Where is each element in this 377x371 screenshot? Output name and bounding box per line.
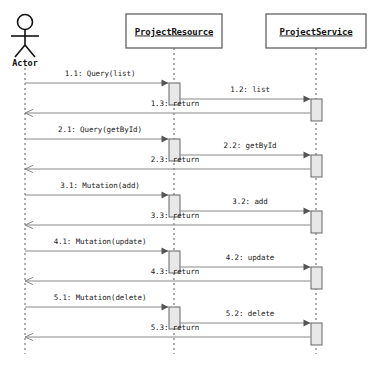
message-1-1[interactable]: 1.1: Query(list) [25,69,169,86]
actor-leg-left-icon [15,45,25,57]
message-arrowhead-1-1 [162,80,169,87]
activation-bar-service[interactable] [311,323,322,345]
message-label-2-3: 2.3: return [151,155,200,164]
message-4-1[interactable]: 4.1: Mutation(update) [25,237,169,254]
message-label-2-2: 2.2: getById [224,141,277,150]
lifeline-resource[interactable]: ProjectResource [126,14,222,354]
sequence-diagram-canvas: ProjectResourceProjectService 1.1: Query… [0,0,377,371]
activation-bar-service[interactable] [311,155,322,177]
activation-bar-service[interactable] [311,267,322,289]
sequence-diagram-svg: ProjectResourceProjectService 1.1: Query… [0,0,377,371]
message-arrowhead-1-2 [304,96,311,103]
message-arrowhead-5-1 [162,304,169,311]
lifeline-service[interactable]: ProjectService [266,14,366,354]
message-4-3[interactable]: 4.3: return [25,267,311,285]
message-5-1[interactable]: 5.1: Mutation(delete) [25,293,169,310]
message-label-4-1: 4.1: Mutation(update) [54,237,147,246]
message-2-1[interactable]: 2.1: Query(getById) [25,125,169,142]
actor-head-icon [18,15,33,30]
actor-figure-group: Actor [11,15,39,69]
message-label-3-2: 3.2: add [232,197,267,206]
activation-bar-service[interactable] [311,99,322,121]
message-label-5-1: 5.1: Mutation(delete) [54,293,147,302]
message-label-4-2: 4.2: update [226,253,275,262]
message-3-3[interactable]: 3.3: return [25,211,311,229]
message-arrowhead-3-1 [162,192,169,199]
activation-bar-service[interactable] [311,211,322,233]
message-label-4-3: 4.3: return [151,267,200,276]
message-label-5-2: 5.2: delete [226,309,275,318]
message-label-1-2: 1.2: list [230,85,270,94]
message-1-3[interactable]: 1.3: return [25,99,311,117]
message-arrowhead-4-1 [162,248,169,255]
actor-leg-right-icon [25,45,35,57]
message-2-3[interactable]: 2.3: return [25,155,311,173]
message-label-3-3: 3.3: return [151,211,200,220]
message-arrowhead-2-1 [162,136,169,143]
message-label-2-1: 2.1: Query(getById) [58,125,142,134]
message-arrowhead-5-2 [304,320,311,327]
actor-label: Actor [12,58,38,68]
message-label-5-3: 5.3: return [151,323,200,332]
messages-group: 1.1: Query(list)1.2: list1.3: return2.1:… [25,69,311,341]
message-label-1-3: 1.3: return [151,99,200,108]
message-arrowhead-3-2 [304,208,311,215]
message-label-1-1: 1.1: Query(list) [65,69,136,78]
message-3-1[interactable]: 3.1: Mutation(add) [25,181,169,198]
message-arrowhead-2-2 [304,152,311,159]
message-label-3-1: 3.1: Mutation(add) [60,181,139,190]
participant-label-resource: ProjectResource [135,27,214,37]
message-5-3[interactable]: 5.3: return [25,323,311,341]
participant-label-service: ProjectService [279,27,353,37]
message-arrowhead-4-2 [304,264,311,271]
